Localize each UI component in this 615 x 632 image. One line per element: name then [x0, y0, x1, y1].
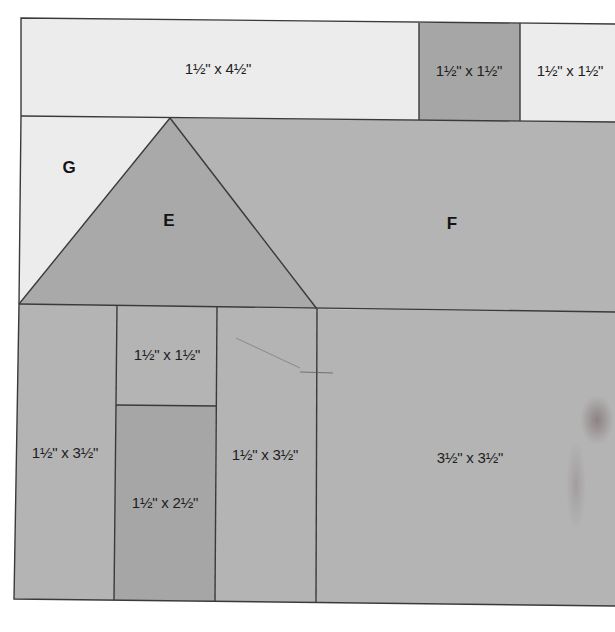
label-top-right-square: 1½" x 1½" — [537, 62, 603, 79]
stain-mark — [580, 395, 614, 445]
label-e: E — [163, 211, 174, 231]
label-left-wall: 1½" x 3½" — [32, 444, 98, 461]
label-g: G — [62, 158, 75, 178]
quilt-block-diagram — [0, 0, 615, 632]
label-f: F — [447, 214, 457, 234]
label-chimney: 1½" x 1½" — [436, 62, 502, 79]
label-right-wall: 1½" x 3½" — [232, 446, 298, 463]
label-door: 1½" x 2½" — [132, 494, 198, 511]
label-side-house: 3½" x 3½" — [437, 449, 503, 466]
label-top-left-strip: 1½" x 4½" — [185, 60, 251, 77]
label-above-door: 1½" x 1½" — [134, 346, 200, 363]
stain-mark-trail — [566, 440, 586, 530]
